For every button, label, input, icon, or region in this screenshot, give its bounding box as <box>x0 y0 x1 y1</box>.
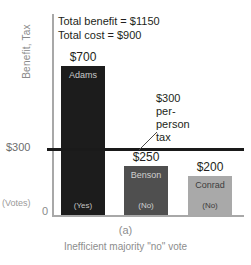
bar-name-adams: Adams <box>61 70 105 80</box>
y-axis-title: Benefit, Tax <box>21 4 32 100</box>
tax-annotation-line-2: per- <box>156 105 190 118</box>
tax-annotation-line-1: $300 <box>156 92 190 105</box>
bar-name-benson: Benson <box>124 170 168 180</box>
summary-text-block: Total benefit = $1150 Total cost = $900 <box>58 14 160 42</box>
bar-value-benson: $250 <box>122 150 170 164</box>
bar-name-conrad: Conrad <box>188 180 232 190</box>
y-tick-label-300: $300 <box>6 141 30 153</box>
x-axis-line <box>52 215 244 217</box>
bar-value-adams: $700 <box>61 50 105 64</box>
bar-vote-conrad: (No) <box>188 201 232 210</box>
tax-threshold-line <box>47 148 244 151</box>
tax-annotation-line-4: tax <box>156 131 190 144</box>
summary-total-cost: Total cost = $900 <box>58 28 160 42</box>
y-tick-label-zero: 0 <box>42 205 48 217</box>
bar-adams <box>61 66 105 215</box>
bar-vote-benson: (No) <box>124 201 168 210</box>
bar-vote-adams: (Yes) <box>61 201 105 210</box>
panel-letter: (a) <box>0 224 251 236</box>
tax-annotation-line-3: person <box>156 118 190 131</box>
figure-panel-a: Benefit, Tax $300 0 (Votes) Total benefi… <box>0 0 251 265</box>
votes-axis-label: (Votes) <box>2 198 31 208</box>
tax-annotation: $300 per- person tax <box>156 92 190 144</box>
y-axis-line <box>52 14 54 216</box>
bar-value-conrad: $200 <box>186 160 234 174</box>
summary-total-benefit: Total benefit = $1150 <box>58 14 160 28</box>
figure-caption: Inefficient majority "no" vote <box>0 241 251 252</box>
